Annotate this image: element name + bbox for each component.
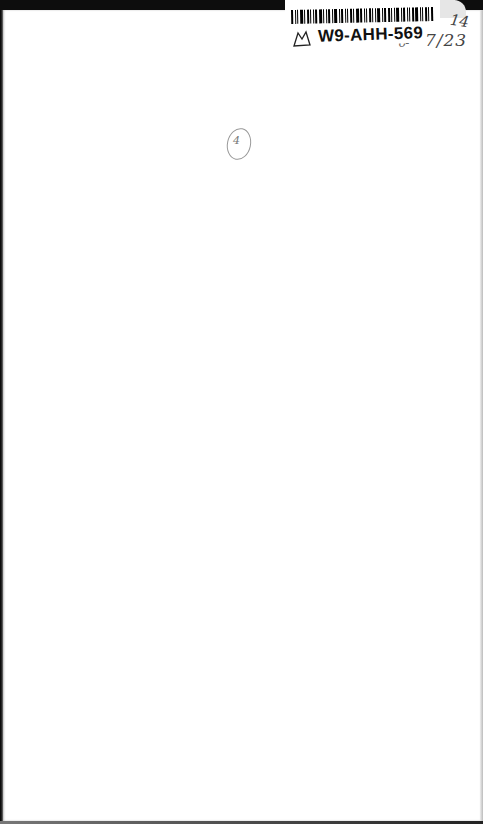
book-logo-icon — [292, 30, 312, 48]
handwritten-mark: ᴗ- — [398, 36, 409, 50]
handwritten-date: 7/23 — [425, 30, 467, 50]
circled-annotation-text: 4 — [233, 134, 240, 147]
handwritten-number: 14 — [449, 11, 470, 31]
